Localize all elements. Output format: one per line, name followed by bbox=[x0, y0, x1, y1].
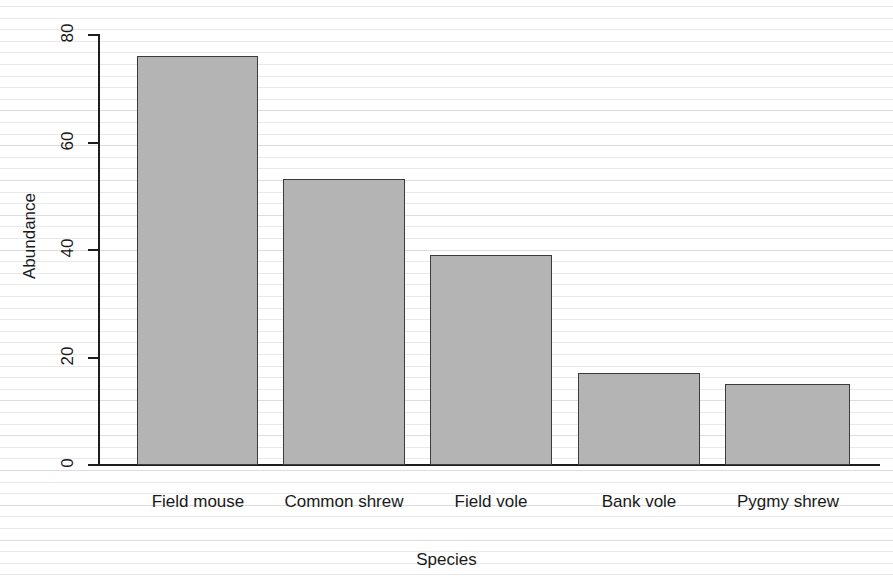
y-tick-60 bbox=[88, 142, 99, 144]
y-tick-80 bbox=[88, 34, 99, 36]
bar-1 bbox=[283, 179, 405, 465]
y-tick-20 bbox=[88, 357, 99, 359]
x-axis-title: Species bbox=[0, 550, 893, 570]
y-tick-label-text: 40 bbox=[58, 239, 78, 258]
y-tick-label-text: 20 bbox=[58, 347, 78, 366]
y-tick-label-40: 40 bbox=[48, 238, 88, 258]
bar-0 bbox=[137, 56, 258, 465]
y-tick-label-60: 60 bbox=[48, 131, 88, 151]
y-tick-label-80: 80 bbox=[48, 23, 88, 43]
x-tick-label-4: Pygmy shrew bbox=[688, 492, 888, 512]
bar-4 bbox=[725, 384, 850, 465]
y-tick-label-20: 20 bbox=[48, 346, 88, 366]
y-tick-0 bbox=[88, 464, 99, 466]
y-tick-label-0: 0 bbox=[48, 453, 88, 473]
y-axis-title: Abundance bbox=[20, 176, 40, 296]
bar-chart-figure: Abundance Species 806040200Field mouseCo… bbox=[0, 0, 893, 585]
chart-title bbox=[0, 0, 893, 4]
bar-2 bbox=[430, 255, 552, 465]
bar-3 bbox=[578, 373, 700, 465]
plot-area bbox=[100, 34, 880, 465]
y-tick-label-text: 80 bbox=[58, 24, 78, 43]
y-tick-label-text: 60 bbox=[58, 132, 78, 151]
y-tick-label-text: 0 bbox=[58, 458, 78, 467]
y-tick-40 bbox=[88, 249, 99, 251]
